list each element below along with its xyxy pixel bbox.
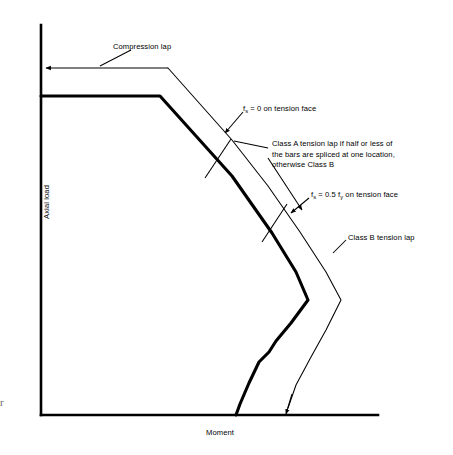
page-edge-artifact: r — [0, 396, 4, 408]
class-b-tension-lap-label: Class B tension lap — [348, 233, 415, 244]
capacity-envelope-polyline — [41, 96, 308, 415]
class-b-leader — [333, 240, 346, 253]
compression-lap-label: Compression lap — [113, 42, 171, 53]
fs-half-text: on tension face — [343, 190, 398, 199]
outer-lap-curve — [46, 68, 341, 414]
interaction-diagram-figure: Compression lap fs = 0 on tension face C… — [0, 0, 453, 455]
fs-zero-leader — [225, 112, 243, 133]
fs-zero-subscript: s — [245, 108, 248, 114]
diagram-canvas — [0, 0, 453, 455]
capacity-envelope-curve — [41, 96, 308, 415]
fy-subscript: y — [340, 194, 343, 200]
class-b-axis-arrow — [286, 394, 292, 414]
class-a-tension-lap-label: Class A tension lap if half or less of t… — [272, 139, 395, 171]
y-axis-label: Axial load — [42, 157, 51, 247]
fs-half-fy-label: fs = 0.5 fy on tension face — [311, 190, 398, 201]
fs-half-mid-text: = 0.5 f — [316, 190, 340, 199]
class-a-upper-leader — [234, 141, 268, 148]
x-axis-label: Moment — [160, 428, 280, 437]
fs-half-leader — [291, 198, 309, 213]
fs-zero-label: fs = 0 on tension face — [243, 104, 316, 115]
outer-lap-polyline — [168, 68, 341, 408]
axis-lines — [41, 25, 378, 415]
fs-half-subscript: s — [313, 194, 316, 200]
fs-zero-text: = 0 on tension face — [248, 104, 316, 113]
